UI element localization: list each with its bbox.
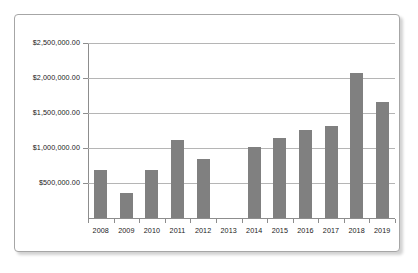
gridline <box>88 43 395 44</box>
gridline <box>88 183 395 184</box>
x-axis-tick <box>190 219 191 223</box>
bar <box>350 73 363 218</box>
x-axis-tick <box>267 219 268 223</box>
x-axis-tick <box>165 219 166 223</box>
x-axis-tick-label: 2019 <box>367 226 397 235</box>
bar <box>273 138 286 218</box>
bar <box>197 159 210 218</box>
x-axis-tick <box>344 219 345 223</box>
x-axis-tick <box>114 219 115 223</box>
bar <box>299 130 312 218</box>
bar <box>171 140 184 218</box>
x-axis-tick <box>216 219 217 223</box>
bar <box>145 170 158 218</box>
y-axis-line <box>88 43 89 219</box>
bar <box>325 126 338 218</box>
y-axis-tick <box>83 43 88 44</box>
y-axis-tick <box>83 113 88 114</box>
x-axis-tick <box>242 219 243 223</box>
bar <box>94 170 107 218</box>
x-axis-tick <box>395 219 396 223</box>
x-axis-tick <box>293 219 294 223</box>
x-axis-tick <box>88 219 89 223</box>
y-axis-tick-label: $2,000,000.00 <box>4 73 80 82</box>
bar <box>248 147 261 218</box>
bar <box>376 102 389 218</box>
y-axis-tick-label: $2,500,000.00 <box>4 38 80 47</box>
y-axis-tick-label: $500,000.00 <box>4 178 80 187</box>
y-axis-tick <box>83 78 88 79</box>
x-axis-tick <box>369 219 370 223</box>
y-axis-tick <box>83 183 88 184</box>
x-axis-tick <box>139 219 140 223</box>
x-axis-tick <box>318 219 319 223</box>
y-axis-tick-label: $1,500,000.00 <box>4 108 80 117</box>
y-axis-tick <box>83 148 88 149</box>
bar <box>120 193 133 218</box>
bar-chart: $500,000.00$1,000,000.00$1,500,000.00$2,… <box>0 0 418 273</box>
gridline <box>88 148 395 149</box>
gridline <box>88 78 395 79</box>
y-axis-tick-label: $1,000,000.00 <box>4 143 80 152</box>
gridline <box>88 113 395 114</box>
